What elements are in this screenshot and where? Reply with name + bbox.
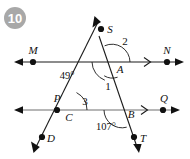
line-PQ	[14, 106, 180, 115]
angle-1-arc	[104, 76, 117, 78]
transversal-SD-top-arrowhead	[92, 16, 101, 28]
transversal-AT-bottom-arrowhead	[133, 144, 141, 153]
point-D-dot	[39, 134, 45, 140]
point-label-T: T	[140, 132, 147, 144]
badge-label: 10	[8, 11, 22, 26]
point-label-C: C	[65, 111, 73, 123]
angle-label-3: 3	[82, 95, 88, 107]
question-number-badge: 10	[4, 7, 26, 29]
point-N-dot	[164, 59, 170, 65]
point-label-A: A	[116, 63, 124, 75]
transversal-SD-segment	[36, 22, 98, 147]
point-label-S: S	[107, 23, 113, 35]
point-label-B: B	[128, 108, 135, 120]
point-Q-dot	[160, 107, 166, 113]
line-MN	[14, 58, 184, 67]
point-label-Q: Q	[160, 92, 168, 104]
point-T-dot	[131, 134, 137, 140]
angle-49-arc	[92, 62, 105, 80]
point-M-dot	[30, 59, 36, 65]
angle-label-107: 107°	[96, 121, 116, 132]
transversal-SD	[31, 16, 101, 153]
point-label-N: N	[162, 44, 171, 56]
line-PQ-left-arrowhead	[14, 106, 23, 114]
point-label-M: M	[27, 44, 38, 56]
angle-label-49: 49°	[60, 70, 75, 81]
geometry-diagram-canvas: 10	[0, 0, 190, 159]
angle-arcs-group	[77, 44, 131, 128]
geometry-figure: 10	[0, 0, 190, 159]
point-label-P: P	[53, 92, 61, 104]
point-S-dot	[98, 26, 104, 32]
line-MN-right-arrowhead	[175, 58, 184, 66]
point-P-dot	[54, 107, 60, 113]
line-MN-left-arrowhead	[14, 58, 23, 66]
point-label-D: D	[46, 132, 55, 144]
angle-label-2: 2	[122, 35, 128, 47]
angle-label-1: 1	[105, 80, 111, 92]
line-PQ-right-arrowhead	[171, 106, 180, 114]
